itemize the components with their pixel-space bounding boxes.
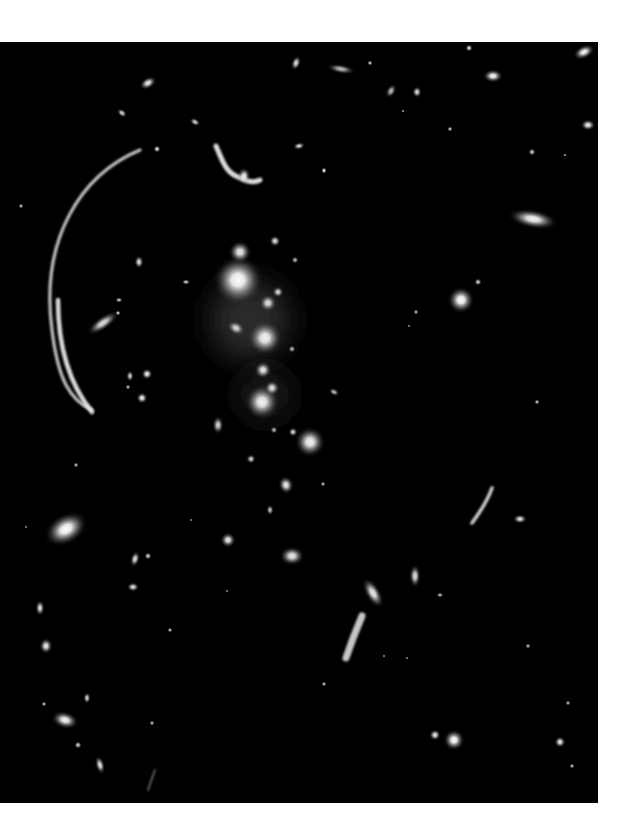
galaxy <box>228 240 252 264</box>
galaxy <box>436 592 444 598</box>
galaxy <box>513 514 528 524</box>
galaxy <box>125 384 131 390</box>
galaxy <box>126 370 134 382</box>
galaxy <box>35 600 45 617</box>
galaxy-cluster-photo <box>0 42 598 803</box>
galaxy <box>134 255 144 269</box>
galaxy <box>580 119 596 131</box>
galaxy <box>266 504 274 515</box>
galaxy <box>212 415 224 434</box>
galaxy <box>153 145 161 153</box>
galaxy <box>291 256 299 264</box>
galaxy <box>272 286 284 298</box>
deep-field-sky <box>0 42 598 803</box>
galaxy <box>115 310 121 316</box>
galaxy <box>269 235 281 247</box>
galaxy <box>247 320 283 356</box>
galaxy <box>407 324 411 328</box>
galaxy <box>447 286 475 314</box>
galaxy <box>409 564 421 588</box>
galaxy <box>321 168 327 174</box>
galaxy <box>144 552 152 560</box>
galaxy <box>525 643 531 649</box>
galaxy <box>270 426 278 434</box>
galaxy <box>288 427 298 437</box>
galaxy <box>136 392 148 404</box>
galaxy <box>367 60 373 66</box>
galaxy <box>320 481 326 487</box>
galaxy <box>405 656 409 660</box>
galaxy <box>401 109 405 113</box>
galaxy <box>443 729 465 751</box>
galaxy <box>264 380 280 396</box>
galaxy <box>149 720 155 726</box>
galaxy <box>74 741 82 749</box>
galaxy <box>127 582 140 592</box>
galaxy <box>220 532 236 548</box>
galaxy <box>321 681 327 687</box>
galaxy <box>294 426 326 458</box>
galaxy <box>73 462 79 468</box>
galaxy <box>412 86 422 98</box>
galaxy <box>563 153 567 157</box>
galaxy <box>254 361 272 379</box>
galaxy <box>246 454 256 464</box>
galaxy <box>115 297 123 303</box>
galaxy <box>565 700 571 706</box>
galaxy <box>474 278 482 286</box>
galaxy <box>483 69 504 83</box>
galaxy <box>534 399 540 405</box>
galaxy <box>39 638 53 655</box>
galaxy <box>413 309 419 315</box>
galaxy <box>569 763 575 769</box>
galaxy <box>18 203 24 209</box>
galaxy <box>382 654 386 658</box>
galaxy <box>182 279 191 285</box>
galaxy <box>141 368 153 380</box>
galaxy <box>279 546 305 566</box>
galaxy <box>83 692 91 704</box>
galaxy <box>447 126 453 132</box>
galaxy <box>24 525 28 529</box>
galaxy <box>167 627 173 633</box>
galaxy <box>225 589 229 593</box>
galaxy <box>429 729 441 741</box>
galaxy <box>41 701 47 707</box>
galaxy <box>237 167 251 185</box>
galaxy <box>189 518 193 522</box>
galaxy <box>554 736 566 748</box>
galaxy <box>465 44 473 52</box>
galaxy <box>288 345 296 353</box>
galaxy <box>528 148 536 156</box>
